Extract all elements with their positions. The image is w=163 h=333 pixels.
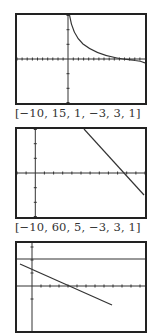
graph-1-window-label: [−10, 15, 1, −3, 3, 1] xyxy=(15,106,141,120)
graph-1-plot xyxy=(17,15,145,103)
graph-2-window-label: [−10, 60, 5, −3, 3, 1] xyxy=(15,220,141,234)
graph-3-plot xyxy=(17,243,145,331)
calculator-screen-3 xyxy=(15,241,147,333)
graph-2-plot xyxy=(17,129,145,217)
calculator-screen-2 xyxy=(15,127,147,219)
calculator-screen-1 xyxy=(15,13,147,105)
